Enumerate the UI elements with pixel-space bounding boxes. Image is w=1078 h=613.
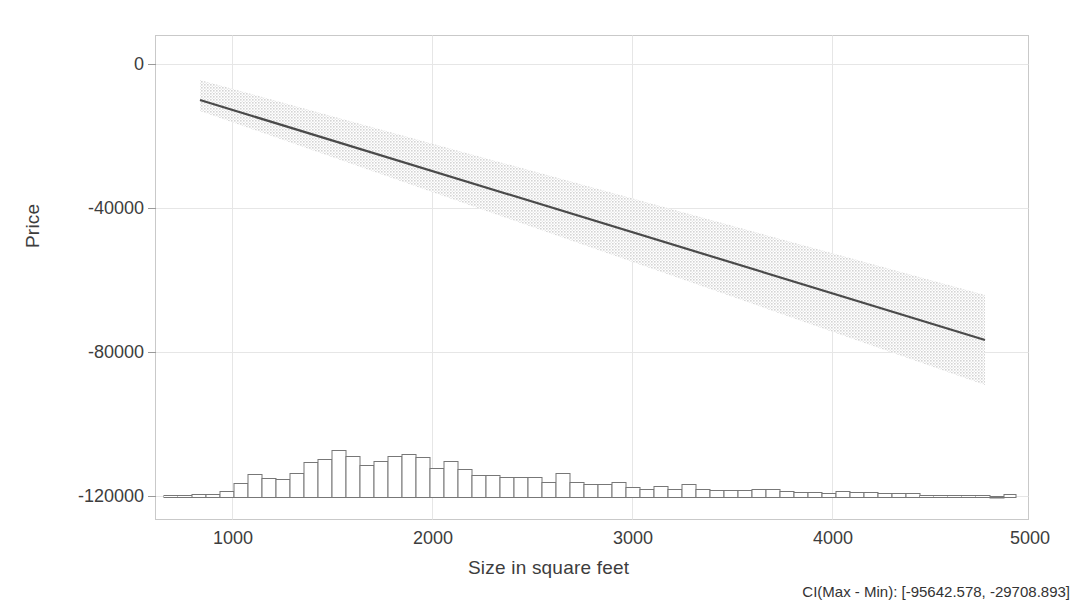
axis-ticks [148,65,156,497]
regression-partial-effect-plot: Price Size in square feet 0 -40000 -8000… [0,0,1078,613]
x-tick-label-3000: 3000 [613,528,653,549]
x-tick-label-2000: 2000 [413,528,453,549]
confidence-interval-caption: CI(Max - Min): [-95642.578, -29708.893] [802,583,1070,600]
x-tick-label-5000: 5000 [1010,528,1050,549]
confidence-band [200,80,985,385]
y-axis-title: Price [22,204,44,248]
y-tick-label-120000: -120000 [60,486,144,507]
x-tick-label-4000: 4000 [813,528,853,549]
x-tick-label-1000: 1000 [213,528,253,549]
x-axis-title: Size in square feet [468,557,629,579]
regression-line [200,100,985,340]
y-tick-label-40000: -40000 [60,198,144,219]
y-tick-label-0: 0 [60,54,144,75]
y-tick-label-80000: -80000 [60,342,144,363]
size-histogram [164,451,1016,499]
plot-canvas [0,0,1078,613]
